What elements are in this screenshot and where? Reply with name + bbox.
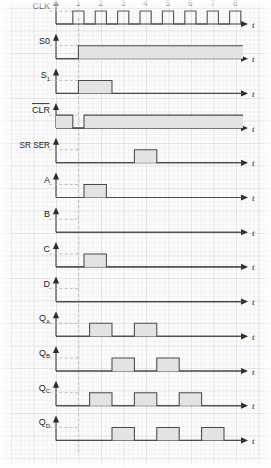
signal-row-b: tB xyxy=(44,207,255,238)
time-axis-label-b: t xyxy=(252,228,255,238)
pulse-fill-qc xyxy=(90,393,112,406)
amplitude-axis-arrow-qb xyxy=(53,346,59,353)
signal-row-qc: tQC xyxy=(39,381,255,412)
signal-row-s1: tS1 xyxy=(41,68,255,99)
signal-row-d: tD xyxy=(44,277,256,308)
amplitude-axis-arrow-c xyxy=(53,242,59,249)
amplitude-axis-arrow-qd xyxy=(53,415,59,422)
signal-row-a: tA xyxy=(44,173,255,204)
signal-row-qd: tQD xyxy=(39,415,255,446)
waveform-qb xyxy=(56,358,243,371)
pulse-fill-clr xyxy=(84,115,243,128)
signal-label-srser: SR SER xyxy=(20,141,51,150)
timing-diagram-page: tCLKtS0tS1tCLRtSR SERtAtBtCtDtQAtQBtQCtQ… xyxy=(0,0,271,468)
waveform-clk xyxy=(56,11,243,24)
amplitude-axis-arrow-qa xyxy=(53,311,59,318)
time-axis-label-a: t xyxy=(252,193,255,203)
signal-row-clr: tCLR xyxy=(32,103,255,134)
pulse-fill-qa xyxy=(90,323,112,336)
signal-label-qc: QC xyxy=(39,383,51,394)
pulse-fill-qb xyxy=(112,358,134,371)
amplitude-axis-arrow-s0 xyxy=(53,34,59,41)
pulse-fill-qc xyxy=(179,393,201,406)
signal-row-c: tC xyxy=(44,242,256,273)
signal-row-srser: tSR SER xyxy=(20,138,255,169)
clock-cycle-label-2: 2 xyxy=(99,0,104,8)
time-axis-label-qc: t xyxy=(252,401,255,411)
timing-diagram-canvas: tCLKtS0tS1tCLRtSR SERtAtBtCtDtQAtQBtQCtQ… xyxy=(0,0,271,468)
signal-label-c: C xyxy=(44,244,51,254)
signal-label-s0: S0 xyxy=(39,36,50,46)
pulse-fill-qd xyxy=(202,427,224,440)
pulse-fill-srser xyxy=(134,150,156,163)
time-axis-label-clr: t xyxy=(252,124,255,134)
amplitude-axis-arrow-qc xyxy=(53,381,59,388)
time-axis-label-d: t xyxy=(252,297,255,307)
amplitude-axis-arrow-b xyxy=(53,207,59,214)
signal-label-a: A xyxy=(44,175,50,185)
signal-label-clk: CLK xyxy=(32,1,50,11)
time-axis-label-qd: t xyxy=(252,436,255,446)
time-axis-label-c: t xyxy=(252,262,255,272)
time-axis-label-s0: t xyxy=(252,54,255,64)
clock-cycle-label-3: 3 xyxy=(121,0,126,8)
signal-label-qb: QB xyxy=(39,348,50,359)
clock-cycle-label-7: 7 xyxy=(211,0,216,8)
time-axis-label-clk: t xyxy=(252,20,255,30)
pulse-fill-s1 xyxy=(78,80,112,93)
pulse-fill-a xyxy=(84,185,106,198)
amplitude-axis-arrow-a xyxy=(53,173,59,180)
time-axis-label-srser: t xyxy=(252,158,255,168)
clock-cycle-label-5: 5 xyxy=(166,0,171,8)
clock-cycle-label-8: 8 xyxy=(233,0,238,8)
pulse-fill-qd xyxy=(112,427,134,440)
signal-label-b: B xyxy=(44,209,50,219)
pulse-fill-qb xyxy=(157,358,179,371)
pulse-fill-qa xyxy=(134,323,156,336)
pulse-fill-clr xyxy=(56,115,73,128)
clock-cycle-label-1: 1 xyxy=(76,0,81,8)
amplitude-axis-arrow-clk xyxy=(53,0,59,6)
clock-cycle-label-6: 6 xyxy=(188,0,193,8)
amplitude-axis-arrow-s1 xyxy=(53,68,59,75)
signal-row-s0: tS0 xyxy=(39,34,255,64)
amplitude-axis-arrow-clr xyxy=(53,103,59,110)
pulse-fill-qd xyxy=(157,427,179,440)
pulse-fill-s0 xyxy=(78,46,243,59)
clock-cycle-label-4: 4 xyxy=(143,0,148,8)
time-axis-label-qa: t xyxy=(252,332,255,342)
pulse-fill-qc xyxy=(134,393,156,406)
signal-row-qa: tQA xyxy=(39,311,255,342)
time-axis-label-qb: t xyxy=(252,367,255,377)
amplitude-axis-arrow-srser xyxy=(53,138,59,145)
waveform-a xyxy=(56,185,243,198)
waveform-c xyxy=(56,254,243,267)
signal-label-qd: QD xyxy=(39,417,51,428)
signal-label-qa: QA xyxy=(39,313,50,324)
time-axis-label-s1: t xyxy=(252,89,255,99)
signal-row-qb: tQB xyxy=(39,346,255,377)
signal-label-d: D xyxy=(44,279,51,289)
signal-label-clr: CLR xyxy=(32,105,51,115)
pulse-fill-c xyxy=(84,254,106,267)
amplitude-axis-arrow-d xyxy=(53,277,59,284)
